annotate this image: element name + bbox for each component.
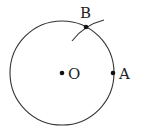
label-b: B [80, 4, 91, 22]
geometry-figure: O A B [0, 0, 144, 134]
label-o: O [68, 65, 80, 83]
point-o-dot [60, 71, 65, 76]
point-b-dot [84, 25, 89, 30]
label-a: A [118, 65, 130, 83]
point-a-dot [111, 71, 116, 76]
